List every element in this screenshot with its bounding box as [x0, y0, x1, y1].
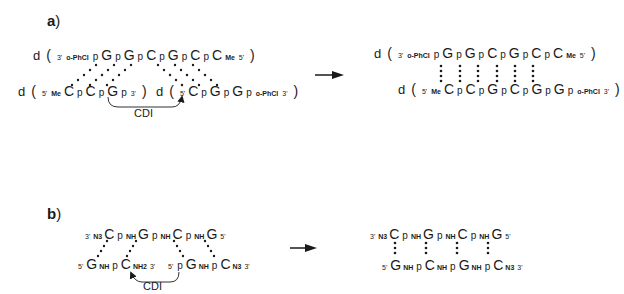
panel-b-cdi-ligation-arrow [131, 272, 179, 282]
panel-a-reaction-arrow [315, 71, 344, 79]
panel-b-product-pairing-dots [394, 242, 490, 255]
paren-close: ) [615, 81, 620, 97]
panel-a-reactant-pairing-dots [71, 64, 218, 86]
dotted-line [71, 64, 97, 86]
panel-a-cdi-ligation-arrow [108, 97, 182, 107]
panel-b-reactant-pairing-dots [97, 240, 215, 257]
panel-a-product-pairing-dots [440, 65, 535, 83]
panel-b-reaction-arrow [290, 244, 317, 252]
